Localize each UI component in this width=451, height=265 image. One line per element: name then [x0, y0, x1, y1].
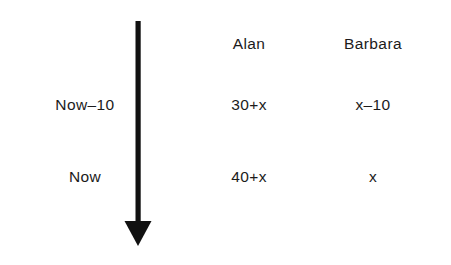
arrow-head [125, 221, 152, 246]
arrow-shaft [136, 21, 141, 223]
row-label-now-minus-10: Now–10 [55, 97, 114, 113]
column-header-barbara: Barbara [344, 36, 402, 52]
row-label-now: Now [69, 169, 101, 185]
cell-alan-now-minus-10: 30+x [231, 97, 267, 113]
cell-barbara-now-minus-10: x–10 [355, 97, 390, 113]
cell-barbara-now: x [369, 169, 377, 185]
diagram-canvas: Alan Barbara Now–10 30+x x–10 Now 40+x x [0, 0, 451, 265]
downward-time-arrow [118, 16, 160, 252]
column-header-alan: Alan [233, 36, 266, 52]
cell-alan-now: 40+x [231, 169, 267, 185]
